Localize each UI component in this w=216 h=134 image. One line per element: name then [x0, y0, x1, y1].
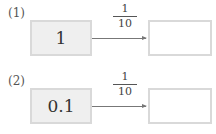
answer-box[interactable] — [148, 20, 212, 56]
arrow-icon — [92, 106, 146, 107]
arrow-icon — [92, 38, 146, 39]
problem-2: (2) 0.1 1 10 — [0, 68, 216, 134]
fraction-operator: 1 10 — [110, 3, 140, 30]
problem-number: (1) — [8, 6, 25, 20]
fraction-numerator: 1 — [110, 3, 140, 15]
problem-1: (1) 1 1 10 — [0, 0, 216, 67]
answer-box[interactable] — [148, 88, 212, 124]
input-value: 0.1 — [47, 96, 74, 116]
fraction-operator: 1 10 — [110, 71, 140, 98]
input-box: 0.1 — [30, 88, 92, 124]
input-value: 1 — [56, 28, 67, 48]
input-box: 1 — [30, 20, 92, 56]
problem-number: (2) — [8, 74, 25, 88]
fraction-denominator: 10 — [110, 86, 140, 98]
fraction-denominator: 10 — [110, 18, 140, 30]
fraction-numerator: 1 — [110, 71, 140, 83]
